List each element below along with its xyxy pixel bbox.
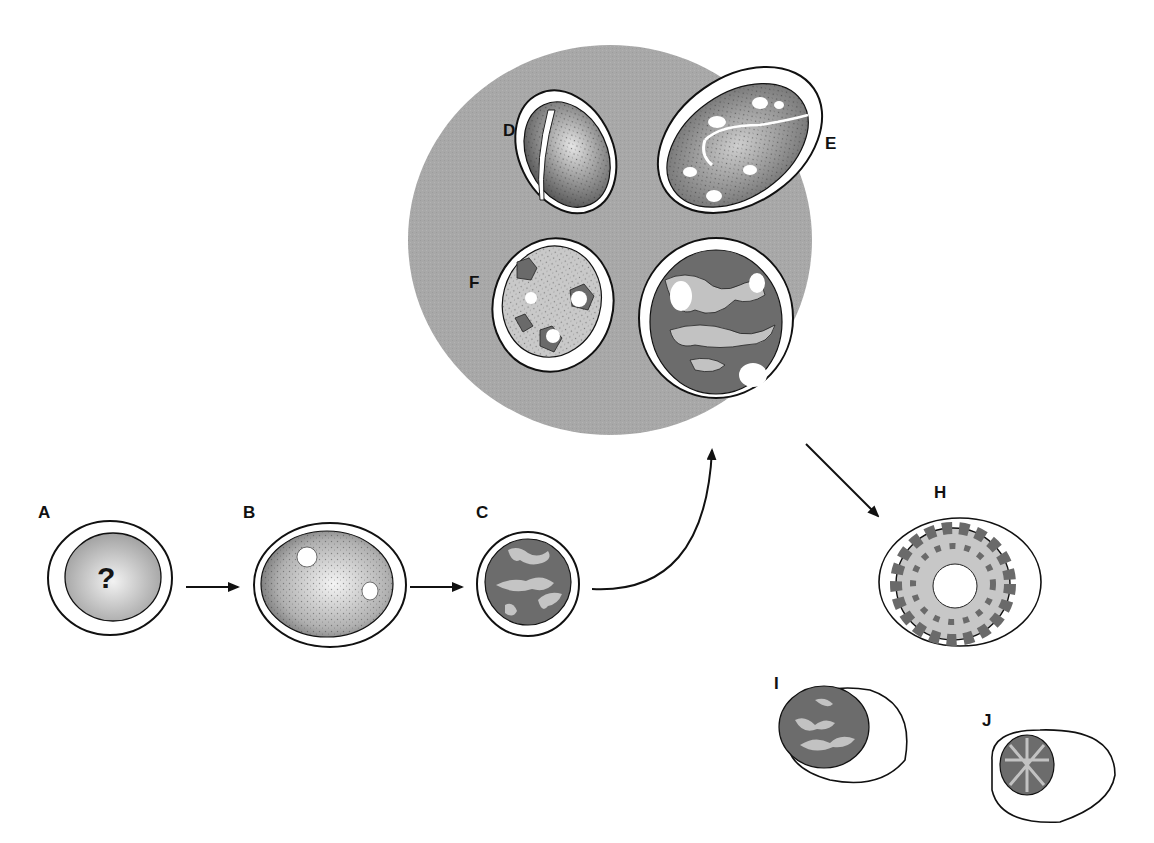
label-h: H — [934, 483, 946, 502]
stage-j: J — [982, 711, 1115, 822]
label-i: I — [774, 674, 779, 693]
stage-c: C — [476, 503, 579, 636]
label-j: J — [982, 711, 991, 730]
label-e: E — [825, 134, 836, 153]
label-c: C — [476, 503, 488, 522]
label-f: F — [469, 273, 479, 292]
stage-a: A ? — [38, 503, 172, 635]
stage-g: G — [639, 238, 793, 398]
stage-i: I — [774, 674, 907, 783]
stage-b: B — [243, 503, 406, 647]
label-a: A — [38, 503, 50, 522]
stage-h: H — [879, 483, 1041, 646]
unknown-symbol: ? — [97, 561, 115, 594]
arrow-group-to-h — [806, 444, 878, 516]
label-b: B — [243, 503, 255, 522]
arrow-c-to-group — [592, 450, 712, 589]
cell-stage-diagram: D E F — [0, 0, 1154, 843]
label-d: D — [503, 121, 515, 140]
